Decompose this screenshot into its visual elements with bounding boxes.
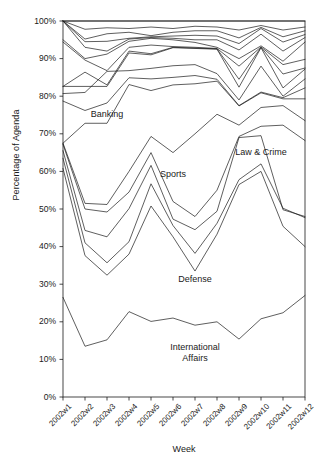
- y-tick-label: 50%: [16, 205, 56, 214]
- y-tick-label: 0%: [16, 393, 56, 402]
- series-label: Banking: [62, 109, 152, 120]
- series-line: [63, 21, 305, 39]
- y-tick-label: 10%: [16, 355, 56, 364]
- y-tick-label: 80%: [16, 92, 56, 101]
- series-line: [63, 48, 305, 88]
- x-axis-title: Week: [63, 444, 305, 454]
- y-tick-label: 30%: [16, 280, 56, 289]
- y-tick-label: 90%: [16, 54, 56, 63]
- y-tick-label: 20%: [16, 317, 56, 326]
- series-label: Law & Crime: [216, 147, 306, 158]
- series-line: [63, 295, 305, 346]
- series-line: [63, 21, 305, 51]
- series-line: [63, 168, 305, 275]
- y-tick-label: 70%: [16, 129, 56, 138]
- series-label: InternationalAffairs: [150, 342, 240, 363]
- series-lines: [63, 21, 305, 346]
- y-tick-label: 40%: [16, 242, 56, 251]
- y-tick-label: 100%: [16, 17, 56, 26]
- series-label: Defense: [150, 274, 240, 285]
- y-tick-label: 60%: [16, 167, 56, 176]
- series-line: [63, 21, 305, 30]
- chart-figure: Percentage of Agenda Week 0%10%20%30%40%…: [0, 0, 323, 465]
- series-label: Sports: [128, 169, 218, 180]
